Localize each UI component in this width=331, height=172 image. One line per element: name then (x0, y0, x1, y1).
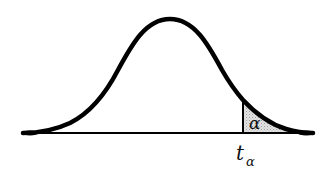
right-tail-end (298, 130, 314, 135)
alpha-area-label: α (249, 113, 261, 133)
t-critical-subscript: α (246, 154, 255, 169)
t-critical-label: t (236, 141, 245, 165)
left-tail-end (22, 130, 38, 135)
bell-curve (23, 19, 313, 133)
t-distribution-diagram: α t α (0, 0, 331, 172)
